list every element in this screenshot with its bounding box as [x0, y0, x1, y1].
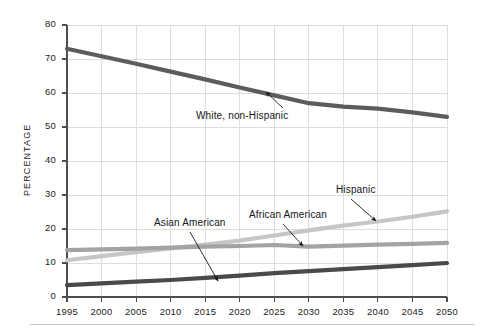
chart-plot-area	[0, 0, 481, 335]
y-axis-ticks	[62, 25, 67, 297]
bottom-divider-rule	[30, 324, 475, 325]
y-tick-label-40: 40	[21, 154, 56, 165]
x-axis-ticks	[67, 297, 447, 302]
series-line-asian-american	[67, 263, 447, 285]
annotation-african-american: African American	[249, 209, 327, 220]
y-tick-label-60: 60	[21, 86, 56, 97]
x-tick-label-2050: 2050	[426, 306, 468, 317]
arrow-asian-american	[190, 232, 218, 281]
arrow-hispanic	[351, 199, 376, 221]
annotation-asian-american: Asian American	[154, 217, 226, 228]
series-line-african-american	[67, 243, 447, 250]
y-tick-label-10: 10	[21, 256, 56, 267]
annotation-white-non-hispanic: White, non-Hispanic	[196, 110, 288, 121]
y-tick-label-50: 50	[21, 120, 56, 131]
y-tick-label-0: 0	[21, 290, 56, 301]
y-tick-label-80: 80	[21, 18, 56, 29]
y-tick-label-30: 30	[21, 188, 56, 199]
y-tick-label-20: 20	[21, 222, 56, 233]
y-tick-label-70: 70	[21, 52, 56, 63]
annotation-hispanic: Hispanic	[336, 184, 376, 195]
population-projection-line-chart: PERCENTAGE 01020304050607080 19952000200…	[0, 0, 481, 335]
